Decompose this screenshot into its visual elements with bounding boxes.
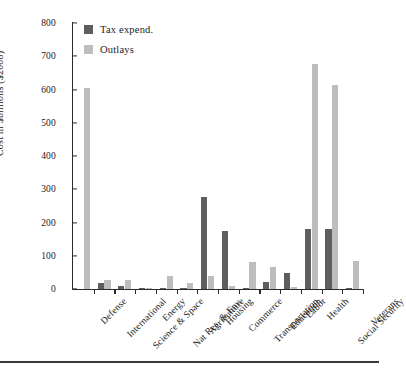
bar-outlays [125, 280, 131, 289]
y-tick-label: 500 [41, 118, 56, 128]
legend-label: Tax expend. [100, 24, 153, 35]
bar-tax-expend [346, 288, 352, 289]
bar-outlays [249, 262, 255, 289]
bar-group [180, 23, 193, 289]
bar-tax-expend [222, 231, 228, 289]
bar-tax-expend [180, 288, 186, 289]
x-tick-label: Defense [99, 296, 129, 326]
x-tick-mark [239, 289, 240, 294]
bar-group [325, 23, 338, 289]
legend-item: Tax expend. [84, 24, 153, 35]
x-tick-mark [156, 289, 157, 294]
bar-outlays [104, 280, 110, 289]
bar-tax-expend [139, 288, 145, 289]
bar-group [284, 23, 297, 289]
y-tick-label: 300 [41, 184, 56, 194]
legend-item: Outlays [84, 44, 153, 55]
bar-tax-expend [243, 288, 249, 289]
x-tick-mark [322, 289, 323, 294]
bar-tax-expend [325, 229, 331, 289]
x-tick-mark [177, 289, 178, 294]
y-tick-label: 200 [41, 218, 56, 228]
bar-tax-expend [201, 197, 207, 289]
bar-group [243, 23, 256, 289]
bar-tax-expend [160, 288, 166, 289]
legend-swatch [84, 45, 93, 54]
bar-group [160, 23, 173, 289]
y-tick-label: 800 [41, 18, 56, 28]
bottom-divider [0, 361, 379, 363]
bar-outlays [312, 64, 318, 289]
bar-outlays [84, 88, 90, 289]
bar-tax-expend [305, 229, 311, 289]
y-axis-tick-labels: 0100200300400500600700800 [0, 0, 68, 377]
bar-tax-expend [263, 282, 269, 289]
y-tick-label: 100 [41, 251, 56, 261]
bar-outlays [353, 261, 359, 289]
x-tick-mark [218, 289, 219, 294]
y-tick-label: 400 [41, 151, 56, 161]
x-tick-mark [280, 289, 281, 294]
x-tick-mark [94, 289, 95, 294]
x-tick-label: Labor [303, 296, 327, 320]
bar-outlays [229, 286, 235, 289]
bar-outlays [291, 287, 297, 289]
bar-group [305, 23, 318, 289]
y-tick-label: 600 [41, 85, 56, 95]
bar-group [263, 23, 276, 289]
chart-legend: Tax expend.Outlays [84, 24, 153, 64]
bar-tax-expend [118, 286, 124, 289]
x-tick-mark [259, 289, 260, 294]
y-tick-label: 0 [51, 284, 56, 294]
x-tick-mark [301, 289, 302, 294]
bar-outlays [270, 267, 276, 289]
bar-group [222, 23, 235, 289]
bar-outlays [187, 283, 193, 289]
bar-outlays [208, 276, 214, 289]
y-axis-title: Cost in $billions ($2008) [0, 51, 5, 156]
bar-group [201, 23, 214, 289]
y-tick-label: 700 [41, 51, 56, 61]
bar-outlays [167, 276, 173, 289]
bar-group [346, 23, 359, 289]
x-tick-mark [114, 289, 115, 294]
x-tick-mark [363, 289, 364, 294]
bar-outlays [332, 85, 338, 289]
legend-swatch [84, 25, 93, 34]
bar-outlays [146, 288, 152, 289]
legend-label: Outlays [100, 44, 134, 55]
bar-tax-expend [284, 273, 290, 289]
x-tick-mark [342, 289, 343, 294]
bar-tax-expend [98, 283, 104, 289]
x-tick-mark [135, 289, 136, 294]
x-tick-mark [197, 289, 198, 294]
x-tick-label: Health [325, 296, 351, 322]
